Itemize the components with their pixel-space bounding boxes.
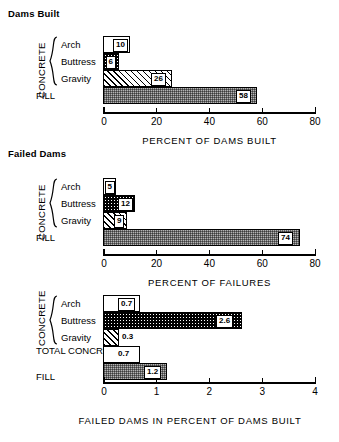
- bar-value-gravity: 9: [114, 215, 124, 228]
- dams-statistics-figure: Dams Built CONCRETE Arch Buttress Gravit…: [0, 0, 339, 442]
- plot-area-dams-built: 10 6 26 58: [103, 0, 316, 112]
- axis-tick-label-40: 40: [204, 116, 215, 127]
- axis-tick-label-60: 60: [257, 258, 268, 269]
- axis-tick-label-60: 60: [257, 116, 268, 127]
- axis-tick-3: [262, 378, 264, 383]
- brace-concrete: [47, 178, 59, 228]
- category-label-arch: Arch: [61, 39, 81, 50]
- category-label-buttress: Buttress: [61, 56, 96, 67]
- axis-tick-label-20: 20: [151, 258, 162, 269]
- axis-tick-label-20: 20: [151, 116, 162, 127]
- axis-tick-label-0: 0: [101, 116, 107, 127]
- category-label-fill: FILL: [36, 232, 55, 243]
- brace-concrete: [47, 295, 59, 345]
- bar-value-arch: 10: [113, 39, 128, 52]
- bar-value-fill: 1.2: [144, 366, 161, 379]
- axis-tick-0: [103, 377, 105, 384]
- axis-tick-0: [103, 249, 105, 256]
- axis-tick-40: [209, 108, 211, 113]
- category-label-fill: FILL: [36, 371, 55, 382]
- bar-value-gravity: 26: [151, 73, 166, 86]
- bar-value-arch: 5: [105, 181, 115, 194]
- category-label-total-concrete: TOTAL CONCRETE: [36, 345, 101, 357]
- panel-title-dams-built: Dams Built: [8, 8, 60, 19]
- group-label-concrete: CONCRETE: [36, 290, 47, 346]
- brace-concrete: [47, 36, 59, 86]
- axis-tick-0: [103, 107, 105, 114]
- category-label-buttress: Buttress: [61, 315, 96, 326]
- bar-value-total-concrete: 0.7: [118, 349, 129, 360]
- category-label-gravity: Gravity: [61, 332, 91, 343]
- plot-area-failed-percent: 0.7 2.6 0.3 0.7 1.2: [103, 288, 316, 382]
- axis-tick-label-40: 40: [204, 258, 215, 269]
- chart-panel-failed-percent-of-built: CONCRETE Arch Buttress Gravity TOTAL CON…: [0, 288, 339, 442]
- axis-tick-4: [315, 377, 317, 384]
- bar-value-buttress: 6: [106, 56, 116, 69]
- axis-title-failed-dams-in-percent-of-dams-built: FAILED DAMS IN PERCENT OF DAMS BUILT: [50, 415, 330, 426]
- bar-value-arch: 0.7: [118, 298, 135, 311]
- axis-title-percent-of-failures: PERCENT OF FAILURES: [103, 277, 316, 288]
- axis-tick-label-80: 80: [309, 258, 320, 269]
- axis-tick-label-4: 4: [312, 386, 318, 397]
- axis-tick-label-1: 1: [154, 386, 160, 397]
- axis-tick-60: [262, 108, 264, 113]
- axis-tick-label-80: 80: [309, 116, 320, 127]
- axis-tick-label-0: 0: [101, 258, 107, 269]
- axis-tick-label-0: 0: [101, 386, 107, 397]
- panel-title-failed-dams: Failed Dams: [8, 148, 66, 159]
- category-label-gravity: Gravity: [61, 73, 91, 84]
- axis-tick-80: [315, 249, 317, 256]
- bar-value-gravity: 0.3: [122, 332, 133, 343]
- axis-tick-20: [156, 108, 158, 113]
- category-label-arch: Arch: [61, 181, 81, 192]
- bar-value-buttress: 12: [118, 198, 133, 211]
- bar-value-fill: 58: [236, 90, 251, 103]
- axis-tick-60: [262, 250, 264, 255]
- chart-panel-failed-dams: Failed Dams CONCRETE Arch Buttress Gravi…: [0, 145, 339, 290]
- bar-fill: [103, 229, 300, 246]
- chart-panel-dams-built: Dams Built CONCRETE Arch Buttress Gravit…: [0, 0, 339, 152]
- bar-fill: [103, 87, 257, 104]
- plot-area-failed-dams: 5 12 9 74: [103, 145, 316, 254]
- category-label-buttress: Buttress: [61, 198, 96, 209]
- axis-tick-label-2: 2: [207, 386, 213, 397]
- bar-value-buttress: 2.6: [216, 315, 233, 328]
- axis-tick-40: [209, 250, 211, 255]
- axis-tick-2: [209, 378, 211, 383]
- axis-tick-20: [156, 250, 158, 255]
- category-label-gravity: Gravity: [61, 215, 91, 226]
- axis-tick-label-3: 3: [259, 386, 265, 397]
- axis-tick-80: [315, 107, 317, 114]
- bar-gravity: [103, 329, 119, 346]
- category-label-fill: FILL: [36, 90, 55, 101]
- axis-tick-1: [156, 378, 158, 383]
- category-label-arch: Arch: [61, 298, 81, 309]
- bar-value-fill: 74: [278, 232, 293, 245]
